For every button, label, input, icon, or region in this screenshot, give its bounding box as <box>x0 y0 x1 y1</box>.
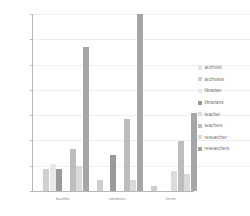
legend-swatch-icon <box>198 135 202 139</box>
x-axis-line <box>32 191 194 192</box>
bar <box>137 14 143 191</box>
bar <box>76 166 82 191</box>
legend-label: teachers <box>205 123 223 128</box>
legend-item-librarians[interactable]: librarians <box>198 97 250 109</box>
legend-item-archivist[interactable]: archivist <box>198 62 250 74</box>
legend-label: librarians <box>205 100 224 105</box>
legend-swatch-icon <box>198 101 202 105</box>
legend-item-researchers[interactable]: researchers <box>198 143 250 155</box>
bar <box>178 141 184 191</box>
legend-item-teacher[interactable]: teacher <box>198 108 250 120</box>
legend-swatch-icon <box>198 89 202 93</box>
bar-group <box>37 14 90 191</box>
plot-area: 0.070.060.050.040.030.020.010 bauftlerna… <box>32 14 194 192</box>
bar <box>151 186 157 191</box>
bar <box>83 47 89 191</box>
bar <box>70 149 76 191</box>
bar <box>130 180 136 191</box>
legend-swatch-icon <box>198 147 202 151</box>
y-axis-tick-mark <box>30 65 33 66</box>
bar <box>50 164 56 191</box>
legend-label: researcher <box>205 135 227 140</box>
legend-label: teacher <box>205 112 221 117</box>
legend-swatch-icon <box>198 124 202 128</box>
x-axis-label: hnnm <box>131 196 212 201</box>
bar <box>110 155 116 191</box>
legend-label: archivist <box>205 65 222 70</box>
bar <box>191 113 197 191</box>
legend-label: archivists <box>205 77 225 82</box>
bar-group <box>91 14 144 191</box>
bar <box>56 169 62 191</box>
y-axis-tick-mark <box>30 191 33 192</box>
legend-swatch-icon <box>198 66 202 70</box>
bar <box>97 180 103 191</box>
bar <box>171 171 177 191</box>
y-axis-tick-mark <box>30 166 33 167</box>
legend-swatch-icon <box>198 112 202 116</box>
legend: archivistarchivistslibrarianlibrarianste… <box>198 62 250 155</box>
y-axis-tick-mark <box>30 14 33 15</box>
y-axis-tick-mark <box>30 90 33 91</box>
bar-group <box>145 14 198 191</box>
bar <box>124 119 130 191</box>
legend-item-teachers[interactable]: teachers <box>198 120 250 132</box>
bar <box>184 174 190 191</box>
legend-item-researcher[interactable]: researcher <box>198 132 250 144</box>
legend-label: researchers <box>205 146 230 151</box>
legend-label: librarian <box>205 88 222 93</box>
bar <box>43 169 49 191</box>
bar-chart: 0.070.060.050.040.030.020.010 bauftlerna… <box>0 0 250 216</box>
y-axis-tick-mark <box>30 39 33 40</box>
legend-item-librarian[interactable]: librarian <box>198 85 250 97</box>
y-axis-tick-mark <box>30 140 33 141</box>
y-axis-tick-mark <box>30 115 33 116</box>
legend-item-archivists[interactable]: archivists <box>198 74 250 86</box>
legend-swatch-icon <box>198 77 202 81</box>
